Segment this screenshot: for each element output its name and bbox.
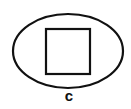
figure-label: c (60, 88, 78, 103)
outer-ellipse (13, 14, 123, 88)
inner-square (46, 29, 90, 74)
